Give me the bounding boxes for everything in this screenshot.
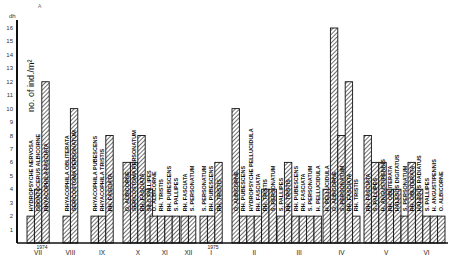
bar (98, 216, 105, 243)
bar-label: S. PALLIPES (173, 178, 179, 212)
bar-label: S. PERSONATUM (201, 165, 207, 211)
year-mark: 1974 (36, 244, 47, 250)
bar (150, 216, 157, 243)
bar-label: RH. FASCIATA (300, 173, 306, 211)
month-group-xi: O. ALBICORNERH. TRISTISRH. PUBESCENSS. P… (150, 166, 180, 243)
bar-label: SERICOSTOMA PERSONATUM (71, 130, 77, 211)
y-tick-label: 13 (6, 65, 13, 71)
bar (207, 216, 214, 243)
bar-label: RH. PUBESCENS (208, 166, 214, 212)
bar-label: S. PERSONATUM (189, 165, 195, 211)
y-tick-label: 10 (6, 106, 13, 112)
bar-label: S. PALLIPES (278, 178, 284, 212)
y-tick-label: 11 (7, 92, 14, 98)
month-group-i: S. PERSONATUMRH. PUBESCENSRH. TRISTIS (200, 162, 222, 243)
y-tick-label: 4 (10, 186, 14, 192)
bar-label: RH. FASCIATA (365, 173, 371, 211)
x-axis: VIIVIIIIXXXIXIIIIIIIIIVVVI19741975 (17, 243, 448, 256)
month-label: IX (99, 249, 106, 256)
bar (200, 216, 207, 243)
bar-label: RHYACOPHILA PUBESCENS (92, 135, 98, 211)
bar (307, 216, 314, 243)
bar-label: HYDROPSYCHE PELLUCIDULA (248, 128, 254, 211)
bar-label: RH. OBLITERATA (387, 165, 393, 211)
bar-label: ODONTOCERUS ALBICORNE (35, 133, 41, 211)
month-label: VIII (66, 249, 76, 256)
bar-label: HYDROPSYCHE NERVOSA (28, 140, 34, 211)
month-label: III (296, 249, 302, 256)
bar-label: O. ALBICORNE (331, 171, 337, 211)
bar (91, 216, 98, 243)
bar-label: S. PALLIPES (424, 178, 430, 212)
bar-label: RH. TRISTIS (262, 179, 268, 211)
y-axis: 12345678910111213141516dh (6, 13, 17, 243)
month-group-vi: RH. OBLITERATAHALESUS RADIATUSS. PALLIPE… (408, 155, 445, 243)
month-group-viii: RHYACOPHILA OBLITERATASERICOSTOMA PERSON… (63, 109, 78, 243)
bar-label: H. ANGUSTIPENNIS (431, 159, 437, 211)
y-tick-label: 9 (10, 119, 14, 125)
bar-label: S. PERSONATUM (270, 165, 276, 211)
bar-label: RH. FASCIATA (346, 173, 352, 211)
bar-label: HALESUS RADIATUS (416, 155, 422, 211)
bar (181, 216, 188, 243)
month-label: XI (162, 249, 168, 256)
bar (314, 216, 321, 243)
bars-layer: HYDROPSYCHE NERVOSAODONTOCERUS ALBICORNE… (27, 28, 445, 243)
bar-label: H. ANGUSTIPENNIS (380, 159, 386, 211)
bar-chart: A 12345678910111213141516dh HYDROPSYCHE … (0, 0, 453, 263)
bar (401, 216, 408, 243)
bar (299, 216, 306, 243)
bar-label: S. PERSONATUM (307, 165, 313, 211)
bar (345, 82, 352, 243)
y-tick-label: 14 (6, 52, 13, 58)
bar-label: RH. FASCIATA (182, 173, 188, 211)
bar-label: O. ALBICORNE (438, 171, 444, 211)
y-tick-label: 16 (6, 25, 13, 31)
month-label: IV (338, 249, 345, 256)
bar (292, 216, 299, 243)
bar-label: RH. PUBESCENS (166, 166, 172, 212)
bar-label: S. PERSONATUM (402, 165, 408, 211)
bar-label: RH. TRISTIS (285, 179, 291, 211)
bar-label: S. PALLIPES (372, 178, 378, 212)
bar-label: RH. PUBESCENS (240, 166, 246, 212)
y-tick-label: 3 (10, 200, 14, 206)
bar (165, 216, 172, 243)
bar (188, 216, 195, 243)
month-group-ix: RHYACOPHILA PUBESCENSRHYACOPHILA TRISTIS… (91, 135, 113, 243)
y-tick-label: 6 (10, 159, 14, 165)
bar (423, 216, 430, 243)
bar-label: RHYACOPHILA OBLITERATA (64, 135, 70, 211)
month-label: II (252, 249, 256, 256)
bar-label: O. ALBICORNE (151, 171, 157, 211)
month-label: VII (34, 249, 42, 256)
bar-label: RH. OBLITERATA (409, 165, 415, 211)
bar-label: RHYACOPHILA TRISTIS (99, 149, 105, 212)
y-tick-label: 8 (10, 133, 14, 139)
month-group-xii: RH. FASCIATAS. PERSONATUM (181, 165, 196, 243)
month-group-iv: H. PELLUCIDULAO. ALBICORNES. PERSONATUMR… (323, 28, 360, 243)
month-label: XII (184, 249, 192, 256)
bar-label: RH. TRISTIS (353, 179, 359, 211)
month-group-iii: S. PALLIPESRH. TRISTISRH. PUBESCENSRH. F… (277, 162, 321, 243)
bar-label: RH. FASCIATA (107, 173, 113, 211)
bar (27, 216, 34, 243)
bar-label: H. PELLUCIDULA (324, 165, 330, 211)
month-group-v: RH. FASCIATAS. PALLIPESH. ANGUSTIPENNISR… (364, 136, 408, 244)
month-label: I (210, 249, 212, 256)
bar-label: RH. TRISTIS (158, 179, 164, 211)
y-tick-label: 2 (10, 213, 14, 219)
y-axis-label: no. of ind./m² (26, 59, 36, 112)
bar-label: RH. FASCIATA (139, 173, 145, 211)
bar-label: RHYACOPHILA FASCIATA (43, 143, 49, 211)
month-label: VI (423, 249, 429, 256)
y-tick-label: 15 (6, 38, 13, 44)
bar (353, 216, 360, 243)
bar-label: RH. TRISTIS (216, 179, 222, 211)
corner-mark: A (38, 3, 42, 9)
month-group-x: O. ALBICORNESERICOSTOMA PERSONATUMRH. FA… (123, 130, 153, 243)
y-unit-label: dh (9, 13, 16, 19)
month-group-ii: O. ALBICORNERH. PUBESCENSHYDROPSYCHE PEL… (232, 109, 276, 243)
bar (438, 216, 445, 243)
y-tick-label: 12 (6, 79, 13, 85)
